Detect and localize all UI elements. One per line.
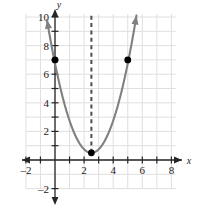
y-axis-arrow-top — [52, 9, 59, 17]
y-axis-arrow-bottom — [52, 197, 59, 205]
x-tick-label: 4 — [110, 164, 116, 176]
y-tick-label: –2 — [37, 183, 49, 195]
y-tick-label: 6 — [44, 68, 50, 80]
y-tick-label: 2 — [44, 125, 50, 137]
parabola-graph-svg: –22468–2246810 x y — [0, 0, 204, 215]
x-axis-arrow-right — [174, 157, 182, 164]
y-tick-label: 4 — [44, 97, 50, 109]
graph-figure: –22468–2246810 x y — [0, 0, 204, 215]
data-point — [52, 57, 59, 64]
x-tick-label: 6 — [140, 164, 146, 176]
data-point — [124, 57, 131, 64]
y-tick-label: 8 — [44, 40, 50, 52]
x-tick-label: 8 — [169, 164, 175, 176]
x-axis-label: x — [186, 155, 192, 166]
data-point — [88, 149, 95, 156]
x-tick-label: 2 — [81, 164, 87, 176]
y-axis-label: y — [56, 0, 62, 10]
x-tick-label: –2 — [19, 164, 31, 176]
